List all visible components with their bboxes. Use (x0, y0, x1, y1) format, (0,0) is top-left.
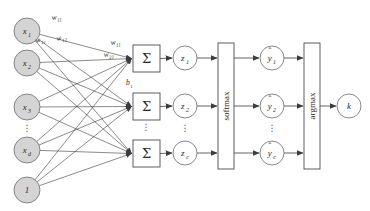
input-nodes-group: x1x2x3xd1 (14, 18, 40, 203)
input-node-x1-label: x (22, 26, 27, 36)
z-node-zc-subscript: c (186, 154, 189, 160)
input-node-bias-label: 1 (25, 185, 30, 195)
z-node-z1-label: z (180, 53, 185, 63)
edge-sum3-to-z3 (160, 153, 172, 154)
weight-label-w12: w12 (55, 32, 68, 45)
yhat-node-yhat1-subscript: 1 (273, 59, 276, 65)
z-node-z2-label: z (180, 101, 185, 111)
weight-label-w21: w21 (103, 49, 114, 61)
z-node-z1: z1 (173, 46, 197, 70)
sum-box-sum1-glyph: Σ (142, 51, 151, 66)
input-to-sum-edges (35, 34, 131, 185)
edge-x3-to-sum3 (39, 112, 132, 153)
z-node-z2-subscript: 2 (186, 107, 189, 113)
yhat-node-yhat1: yˆ1 (260, 46, 284, 70)
yhat-node-yhatc: yˆc (260, 141, 284, 165)
input-node-x3-subscript: 3 (27, 108, 31, 114)
edge-bias-to-sum3 (39, 154, 131, 186)
weight-label-w11-top-subscript: 11 (57, 17, 62, 23)
bias-label-b1: b1 (126, 78, 133, 89)
weight-label-w12-subscript: 12 (62, 37, 69, 43)
yhat-node-yhat2: yˆ2 (260, 94, 284, 118)
input-node-xd-label: x (22, 145, 27, 155)
weight-labels-group: w11w1cw12w11w21b1 (34, 12, 132, 89)
neural-network-diagram: x1x2x3xd1 ΣΣΣ z1z2zc softmax yˆ1yˆ2yˆc a… (0, 0, 370, 211)
argmax-box-group: argmax (304, 43, 320, 169)
weight-label-w11-mid-subscript: 11 (116, 42, 121, 48)
sum-box-sum3: Σ (133, 140, 160, 167)
edge-xd-to-sum2 (39, 107, 131, 146)
z-node-z2: z2 (173, 94, 197, 118)
input-node-x2-label: x (22, 58, 27, 68)
input-node-x3-label: x (22, 102, 27, 112)
bias-label-subscript: 1 (130, 84, 133, 89)
weight-label-w11-mid: w11 (110, 37, 121, 49)
ellipsis-group: ⋮⋮⋮⋮ (23, 122, 277, 133)
edge-x3-to-sum1 (39, 59, 132, 102)
yhat-column-ellipsis: ⋮ (268, 123, 277, 133)
input-node-x2-subscript: 2 (28, 64, 31, 70)
input-node-x3: x3 (14, 94, 40, 120)
z-node-zc-label: z (180, 148, 185, 158)
yhat-nodes-group: yˆ1yˆ2yˆc (260, 46, 284, 165)
yhat-node-yhat1-hat: ˆ (268, 47, 271, 56)
softmax-box-label: softmax (221, 91, 231, 120)
sum-box-sum3-glyph: Σ (142, 146, 151, 161)
argmax-box-label: argmax (307, 92, 317, 119)
output-node-k: k (337, 94, 361, 118)
edge-bias-to-sum1 (35, 59, 131, 180)
sum-column-ellipsis: ⋮ (142, 122, 151, 132)
sum-box-sum2-glyph: Σ (142, 99, 151, 114)
z-nodes-group: z1z2zc (173, 46, 197, 165)
edge-sum2-to-z2 (160, 106, 172, 107)
input-column-ellipsis: ⋮ (23, 123, 32, 133)
weight-label-w1c-subscript: 1c (41, 39, 48, 45)
z-node-z1-subscript: 1 (186, 59, 189, 65)
edge-x1-to-sum3 (35, 41, 131, 154)
edge-xd-to-sum1 (37, 59, 132, 142)
input-node-x2: x2 (14, 50, 40, 76)
softmax-box-group: softmax (218, 43, 234, 169)
input-node-x1-subscript: 1 (28, 32, 31, 38)
edge-x1-to-sum2 (38, 39, 132, 107)
z-node-zc: zc (173, 141, 197, 165)
edge-sum1-to-z1 (160, 58, 172, 59)
diagram-canvas: x1x2x3xd1 ΣΣΣ z1z2zc softmax yˆ1yˆ2yˆc a… (0, 0, 370, 211)
output-node-group: k (337, 94, 361, 118)
edge-x2-to-sum2 (39, 68, 131, 107)
argmax-box: argmax (304, 43, 320, 169)
input-node-bias: 1 (14, 177, 40, 203)
input-node-xd: xd (14, 137, 40, 163)
yhat-node-yhatc-hat: ˆ (268, 142, 271, 151)
weight-label-w11-top: w11 (51, 12, 62, 24)
yhat-node-yhatc-subscript: c (273, 154, 276, 160)
sum-boxes-group: ΣΣΣ (133, 45, 160, 167)
yhat-node-yhat2-subscript: 2 (273, 107, 276, 113)
edge-x2-to-sum1 (40, 59, 132, 63)
softmax-box: softmax (218, 43, 234, 169)
sum-box-sum1: Σ (133, 45, 160, 72)
edge-xd-to-sum3 (40, 150, 132, 153)
z-column-ellipsis: ⋮ (181, 123, 190, 133)
weight-label-w21-subscript: 21 (109, 55, 114, 60)
yhat-node-yhat2-hat: ˆ (268, 95, 271, 104)
sum-box-sum2: Σ (133, 93, 160, 120)
